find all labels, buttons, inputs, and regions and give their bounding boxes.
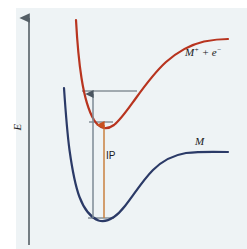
curve-label-cation: M+ + e−	[184, 46, 222, 58]
y-axis-label: E	[11, 123, 23, 131]
curve-cation-plus-electron	[76, 20, 228, 128]
figure-container: E IP M+ + e− M	[0, 0, 247, 249]
curve-label-cation-mid: + e	[199, 46, 217, 58]
potential-energy-diagram: E IP M+ + e− M	[0, 0, 247, 249]
curve-label-neutral: M	[194, 135, 205, 147]
curve-label-cation-sup-minus: −	[217, 46, 222, 54]
ip-label: IP	[106, 150, 116, 161]
